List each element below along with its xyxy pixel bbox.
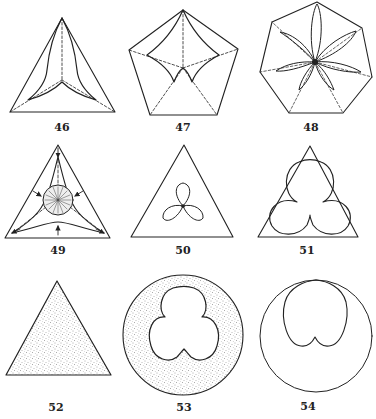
figure-label-51: 51: [299, 244, 315, 257]
circle-hatching: [45, 187, 71, 213]
figure-49: [5, 145, 110, 238]
petals: [276, 4, 361, 90]
figure-label-48: 48: [303, 121, 319, 134]
figure-label-53: 53: [176, 401, 192, 414]
figure-label-47: 47: [175, 121, 191, 134]
outer-circle: [260, 280, 372, 392]
figure-label-54: 54: [300, 400, 316, 413]
figure-47: [129, 10, 238, 115]
figure-label-49: 49: [50, 244, 66, 257]
figure-54: [260, 280, 372, 392]
large-trefoil: [270, 160, 351, 234]
heptagon-outline: [260, 2, 372, 113]
small-trefoil: [163, 183, 203, 220]
dashed-radii: [260, 22, 372, 113]
center-dot: [313, 60, 318, 65]
figure-plate: [0, 0, 376, 419]
figure-52: [6, 281, 111, 375]
triangle-outline: [10, 18, 115, 112]
triangle-outline: [131, 145, 233, 237]
figure-51: [258, 146, 358, 237]
figure-48: [260, 2, 372, 113]
figure-53: [123, 275, 243, 395]
pentagon-outline: [129, 10, 238, 115]
dashed-radii: [10, 18, 115, 112]
figure-label-52: 52: [48, 401, 64, 414]
figure-50: [131, 145, 233, 237]
figure-label-46: 46: [54, 121, 70, 134]
figure-46: [10, 18, 115, 112]
inverted-cardioid: [283, 280, 347, 346]
figure-label-50: 50: [175, 244, 191, 257]
stippled-triangle: [6, 281, 111, 375]
